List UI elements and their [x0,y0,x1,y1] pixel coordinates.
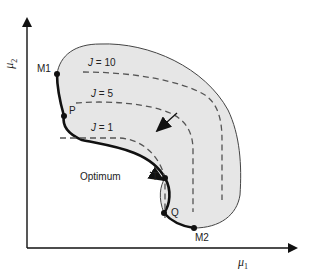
contour-label-j1: J = 1 [91,123,113,133]
label-m2: M2 [195,233,209,243]
label-p: P [69,106,76,116]
point-m1 [54,71,60,77]
diagram-canvas [0,0,314,274]
point-m2 [191,225,197,231]
label-q: Q [171,208,179,218]
label-t: T [152,172,158,182]
optimum-label: Optimum [80,172,121,182]
contour-label-j5: J = 5 [91,89,113,99]
label-m1: M1 [37,64,51,74]
contour-label-j10: J = 10 [88,58,116,68]
point-q [161,210,167,216]
point-t [162,175,168,181]
x-axis-label: μ1 [238,256,248,271]
y-axis-label: μ2 [3,59,18,69]
point-p [61,113,67,119]
